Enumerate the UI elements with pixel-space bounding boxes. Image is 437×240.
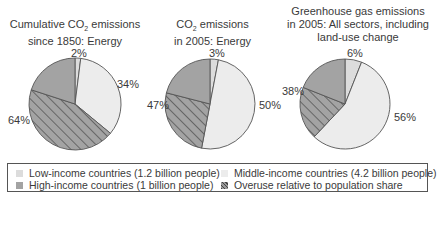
pie-chart-3 (300, 59, 390, 149)
pie-chart-2 (165, 59, 255, 149)
legend-label-middle: Middle-income countries (4.2 billion peo… (234, 167, 437, 179)
swatch-hatch-icon (221, 182, 228, 189)
pie1-high-label: 64% (8, 114, 30, 126)
pie1-low-label: 2% (71, 47, 87, 59)
legend: Low-income countries (1.2 billion people… (7, 163, 428, 192)
pie3-high-label: 38% (282, 85, 304, 97)
swatch-low-icon (16, 170, 23, 177)
pie1-mid-label: 34% (117, 78, 139, 90)
pie-chart-1 (29, 58, 121, 150)
legend-item-low: Low-income countries (1.2 billion people… (16, 167, 220, 179)
pie2-mid-label: 50% (259, 99, 281, 111)
swatch-high-icon (16, 182, 23, 189)
legend-label-low: Low-income countries (1.2 billion people… (29, 167, 220, 179)
legend-label-overuse: Overuse relative to population share (234, 179, 403, 191)
pie2-high-label: 47% (147, 99, 169, 111)
legend-item-middle: Middle-income countries (4.2 billion peo… (221, 167, 437, 179)
legend-item-high: High-income countries (1 billion people) (16, 179, 213, 191)
pie3-mid-label: 56% (394, 111, 416, 123)
legend-item-overuse: Overuse relative to population share (221, 179, 403, 191)
swatch-middle-icon (221, 170, 228, 177)
legend-label-high: High-income countries (1 billion people) (29, 179, 213, 191)
pie2-low-label: 3% (209, 47, 225, 59)
pie3-low-label: 6% (347, 47, 363, 59)
